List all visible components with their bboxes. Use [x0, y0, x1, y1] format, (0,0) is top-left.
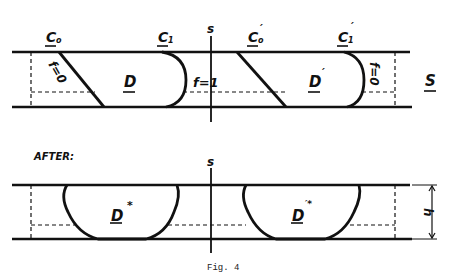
fig4-diagram: C o C 1 s C o ′ C 1 ′ D D ′ — [0, 0, 452, 277]
before-panel: C o C 1 s C o ′ C 1 ′ D D ′ — [12, 20, 436, 122]
c0-prime-front-line — [237, 52, 286, 107]
label-region-d: D — [123, 73, 136, 92]
c1-prime-subscript: 1 — [348, 36, 354, 45]
label-c0: C o — [45, 29, 62, 46]
height-label: h — [421, 208, 435, 217]
label-strip-s: S — [424, 72, 436, 91]
axis-s-label-bottom: s — [207, 155, 214, 169]
label-region-d-prime-star: D ′* — [291, 199, 312, 225]
label-region-d-star: D * — [110, 199, 133, 225]
region-d-letter: D — [124, 73, 136, 91]
axis-s-label-top: s — [207, 22, 214, 36]
strip-s-letter: S — [425, 72, 436, 90]
c1-subscript: 1 — [168, 36, 174, 45]
region-d-prime-mark: ′ — [322, 66, 325, 79]
after-panel: AFTER: s D * D ′* h — [12, 151, 437, 253]
label-c1-prime: C 1 ′ — [337, 20, 354, 46]
c0-prime-mark: ′ — [260, 22, 263, 35]
f-zero-left-label: f=0 — [45, 59, 69, 86]
c1-prime-front-curve — [344, 52, 364, 107]
f-one-label: f=1 — [193, 75, 219, 90]
figure-caption: Fig. 4 — [207, 263, 239, 273]
after-heading: AFTER: — [33, 151, 74, 162]
c1-prime-mark: ′ — [351, 20, 354, 33]
c0-subscript: o — [56, 36, 62, 45]
c0-prime-subscript: o — [258, 36, 264, 45]
region-d-prime-letter: D — [309, 73, 321, 91]
region-d-prime-star-mark: ′* — [305, 199, 312, 209]
f-zero-right-label: f=0 — [367, 62, 381, 86]
label-c0-prime: C o ′ — [247, 22, 264, 46]
region-d-star-mark: * — [127, 199, 133, 212]
label-c1: C 1 — [157, 29, 174, 46]
label-region-d-prime: D ′ — [308, 66, 325, 92]
c1-front-curve — [162, 52, 186, 107]
height-dimension: h — [412, 185, 437, 239]
